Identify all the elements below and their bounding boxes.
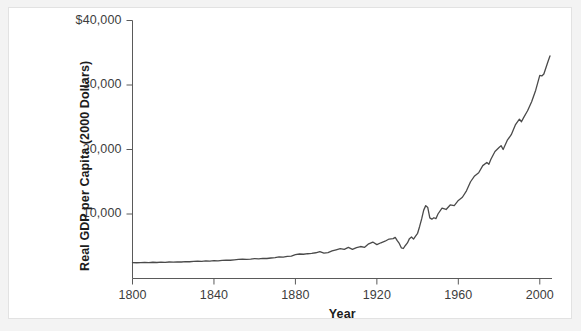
axis-lines xyxy=(133,21,553,279)
x-axis-title: Year xyxy=(282,307,402,321)
x-tick-label: 1880 xyxy=(255,288,335,302)
gdp-line-series xyxy=(133,56,550,263)
x-tick-label: 1800 xyxy=(93,288,173,302)
tick-marks xyxy=(127,21,540,285)
x-tick-label: 1960 xyxy=(418,288,498,302)
x-tick-label: 2000 xyxy=(500,288,580,302)
x-tick-label: 1840 xyxy=(174,288,254,302)
figure-root: 10,00020,00030,000$40,000 18001840188019… xyxy=(0,0,581,331)
y-tick-label: $40,000 xyxy=(76,13,122,27)
x-tick-label: 1920 xyxy=(337,288,417,302)
y-axis-title: Real GDP per Capita (2000 Dollars) xyxy=(78,60,92,270)
